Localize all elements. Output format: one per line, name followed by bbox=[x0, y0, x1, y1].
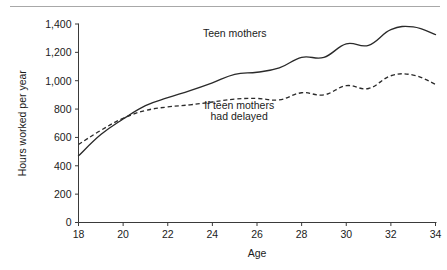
y-tick-label: 200 bbox=[54, 188, 72, 200]
y-tick-label: 400 bbox=[54, 160, 72, 172]
x-axis-title: Age bbox=[248, 247, 267, 259]
y-axis-title: Hours worked per year bbox=[16, 70, 28, 177]
x-tick-label: 34 bbox=[430, 228, 442, 240]
y-tick-label: 600 bbox=[54, 131, 72, 143]
x-axis-tick-labels: 182022242628303234 bbox=[73, 228, 442, 240]
y-axis-tick-labels: 02004006008001,0001,2001,400 bbox=[45, 18, 71, 229]
x-tick-label: 28 bbox=[296, 228, 308, 240]
y-axis-ticks bbox=[75, 24, 79, 223]
y-tick-label: 0 bbox=[66, 216, 72, 228]
x-axis-ticks bbox=[79, 223, 436, 227]
y-tick-label: 1,400 bbox=[45, 18, 71, 30]
series-line-teen-mothers bbox=[79, 26, 436, 156]
x-tick-label: 20 bbox=[117, 228, 129, 240]
line-chart: 02004006008001,0001,2001,400 18202224262… bbox=[0, 0, 447, 270]
x-tick-label: 30 bbox=[340, 228, 352, 240]
y-tick-label: 800 bbox=[54, 103, 72, 115]
series-annotation-if-delayed-line1: If teen mothers bbox=[204, 99, 274, 111]
x-tick-label: 26 bbox=[251, 228, 263, 240]
y-tick-label: 1,200 bbox=[45, 46, 71, 58]
x-tick-label: 18 bbox=[73, 228, 85, 240]
y-tick-label: 1,000 bbox=[45, 75, 71, 87]
x-tick-label: 32 bbox=[385, 228, 397, 240]
x-tick-label: 22 bbox=[162, 228, 174, 240]
x-tick-label: 24 bbox=[207, 228, 219, 240]
figure-container: 02004006008001,0001,2001,400 18202224262… bbox=[0, 0, 447, 270]
series-annotation-if-delayed-line2: had delayed bbox=[211, 110, 268, 122]
series-annotation-teen-mothers: Teen mothers bbox=[203, 27, 267, 39]
